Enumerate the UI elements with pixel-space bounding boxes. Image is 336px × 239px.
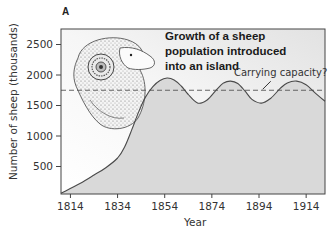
y-axis-label: Number of sheep (thousands) [7,23,19,180]
x-tick-label: 1894 [246,200,273,212]
title-line-1: Growth of a sheep [165,30,265,42]
x-tick-label: 1854 [151,200,178,212]
x-axis-label: Year [183,216,207,228]
x-tick-label: 1914 [293,200,320,212]
ram-horn-center [99,65,103,69]
y-tick-label: 1500 [26,99,53,111]
y-tick-label: 2500 [26,38,53,50]
panel-label: A [62,6,69,17]
chart: A Growth of a sheep population introduce… [0,0,336,239]
title-line-2: population introduced [165,45,286,57]
x-tick-label: 1874 [198,200,225,212]
x-tick-label: 1814 [57,200,84,212]
carrying-capacity-annotation: Carrying capacity? [234,67,327,78]
y-axis: 5001000150020002500 [26,38,61,172]
title-line-3: into an island [165,60,239,72]
x-axis: 181418341854187418941914 [57,194,320,212]
sheep-eye [130,54,132,56]
x-tick-label: 1834 [104,200,131,212]
y-tick-label: 1000 [26,130,53,142]
y-tick-label: 2000 [26,69,53,81]
y-tick-label: 500 [33,160,53,172]
